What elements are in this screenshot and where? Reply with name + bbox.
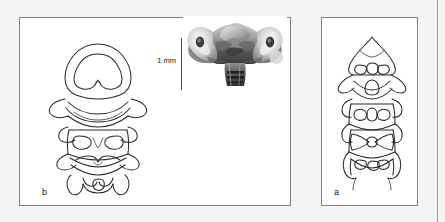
specimen-photograph <box>183 16 287 92</box>
vertebral-drawing-b <box>38 38 158 198</box>
scale-bar: 1 mm <box>148 36 182 92</box>
panel-a: a <box>321 17 418 206</box>
panel-label-a: a <box>334 188 339 197</box>
page-edge-rule <box>437 0 438 222</box>
scale-bar-label: 1 mm <box>157 57 176 65</box>
scale-bar-rule <box>181 38 182 90</box>
panel-label-b: b <box>42 188 47 197</box>
figure-root: b <box>0 0 445 222</box>
vertebral-drawing-a <box>332 32 412 194</box>
